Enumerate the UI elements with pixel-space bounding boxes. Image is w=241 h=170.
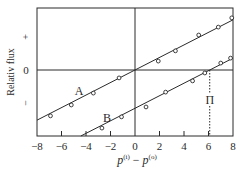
pi-annotation: Π (205, 93, 214, 107)
data-point (156, 59, 160, 63)
series-label-b: B (103, 111, 111, 125)
x-tick-label: 2 (157, 140, 163, 152)
y-tick-label: + (20, 34, 31, 40)
data-point (91, 91, 95, 95)
data-point (197, 33, 201, 37)
data-point (219, 61, 223, 65)
series-points (49, 16, 234, 130)
x-tick-label: −6 (56, 140, 68, 152)
x-tick-label: 6 (206, 140, 212, 152)
data-point (191, 79, 195, 83)
data-point (117, 76, 121, 80)
x-tick-label: 0 (132, 140, 138, 152)
data-point (203, 71, 207, 75)
data-point (69, 103, 73, 107)
data-point (230, 16, 234, 20)
x-tick-label: −2 (105, 140, 117, 152)
x-tick-label: 4 (181, 140, 187, 152)
data-point (164, 90, 168, 94)
x-axis-tick-labels: −8−6−4−202468 (31, 140, 236, 152)
flux-chart: −8−6−4−202468 +0− Π A B Relativ flux p(i… (0, 0, 241, 170)
y-tick-label: − (20, 100, 31, 106)
y-tick-label: 0 (23, 64, 29, 76)
data-point (49, 114, 53, 118)
data-point (216, 25, 220, 29)
y-axis-tick-labels: +0− (20, 34, 31, 106)
x-axis-label: p(i)−p(o) (116, 153, 157, 167)
y-axis-label: Relativ flux (5, 48, 16, 96)
x-tick-label: −8 (31, 140, 43, 152)
data-point (174, 49, 178, 53)
data-point (100, 126, 104, 130)
data-point (120, 115, 124, 119)
series-label-a: A (75, 84, 84, 98)
data-point (229, 56, 233, 60)
x-tick-label: 8 (230, 140, 236, 152)
x-tick-label: −4 (80, 140, 92, 152)
data-point (144, 105, 148, 109)
